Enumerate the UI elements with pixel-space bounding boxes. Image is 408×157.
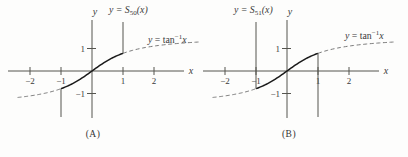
series-label-suffix: (x)	[137, 4, 148, 15]
x-tick-label: 2	[347, 76, 352, 86]
series-label-subscript: 50	[130, 9, 137, 17]
curve-arctan-extension-right	[318, 42, 396, 53]
ref-label-eq: = tan	[152, 34, 174, 45]
series-label-prefix: y = S	[109, 4, 130, 15]
x-tick-label: −2	[220, 76, 230, 86]
plot-panel-b: xy−2−1121−1 y = S51(x) y = tan−1x (B)	[195, 0, 408, 157]
x-axis-title: x	[383, 65, 389, 76]
plot-b-axes: xy−2−1121−1	[195, 0, 408, 127]
panel-caption-a: (A)	[0, 129, 186, 139]
plot-a-axes: xy−2−1121−1	[0, 0, 208, 127]
y-axis-title: y	[92, 6, 98, 17]
series-label-suffix: (x)	[262, 4, 273, 15]
series-label-prefix: y = S	[234, 4, 255, 15]
ref-label-xvar: x	[182, 34, 186, 45]
y-tick-label: 1	[81, 44, 86, 54]
x-axis-title: x	[188, 65, 194, 76]
y-tick-label: −1	[75, 89, 85, 99]
plot-panel-a: xy−2−1121−1 y = S50(x) y = tan−1x (A)	[0, 0, 208, 157]
ref-label-eq: = tan	[349, 30, 371, 41]
figure-canvas: xy−2−1121−1 y = S50(x) y = tan−1x (A) xy…	[0, 0, 408, 157]
y-axis-title: y	[287, 6, 293, 17]
series-label-subscript: 51	[255, 9, 262, 17]
y-tick-label: −1	[270, 89, 280, 99]
x-tick-label: −2	[25, 76, 35, 86]
arctan-curve-label-a: y = tan−1x	[148, 31, 187, 46]
y-tick-label: 1	[276, 44, 281, 54]
curve-arctan-extension-left	[18, 89, 61, 98]
arctan-curve-label-b: y = tan−1x	[345, 27, 384, 42]
x-tick-label: 2	[152, 76, 157, 86]
x-tick-label: −1	[56, 76, 66, 86]
series-label-s51: y = S51(x)	[234, 4, 273, 19]
curve-arctan-extension-left	[213, 89, 256, 98]
series-label-s50: y = S50(x)	[109, 4, 148, 19]
ref-label-xvar: x	[379, 30, 383, 41]
x-tick-label: 1	[121, 76, 126, 86]
panel-caption-b: (B)	[195, 129, 383, 139]
